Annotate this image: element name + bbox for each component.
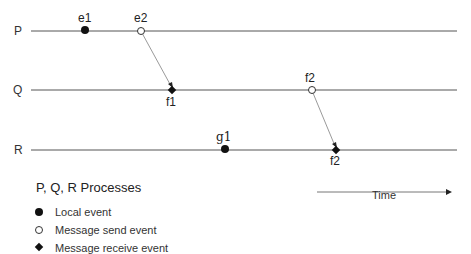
message-arrow-f2-f2 (313, 93, 335, 146)
process-label-p: P (14, 24, 22, 38)
event-label-f1: f1 (166, 95, 176, 109)
send-event-f2 (309, 87, 316, 94)
hollow-circle-icon (33, 224, 49, 236)
legend-label: Message send event (55, 224, 157, 236)
send-event-e2 (138, 28, 145, 35)
local-event-g1 (221, 145, 229, 153)
event-label-e1: e1 (78, 11, 92, 25)
event-label-g1: g1 (216, 130, 231, 144)
legend-label: Message receive event (55, 242, 168, 254)
event-label-f2-receive: f2 (330, 154, 340, 168)
process-label-q: Q (13, 83, 22, 97)
legend-label: Local event (55, 206, 111, 218)
legend-item-local: Local event (33, 203, 168, 221)
filled-circle-icon (33, 206, 49, 218)
message-arrow-e2-f1 (142, 33, 171, 86)
legend-item-send: Message send event (33, 221, 168, 239)
event-label-e2: e2 (134, 11, 148, 25)
legend-title: P, Q, R Processes (36, 180, 168, 195)
filled-diamond-icon (33, 242, 49, 254)
event-label-f2-send: f2 (305, 71, 315, 85)
receive-event-f2 (332, 146, 340, 154)
time-axis-label: Time (372, 189, 396, 201)
process-label-r: R (14, 143, 23, 157)
legend: P, Q, R Processes Local event Message se… (33, 180, 168, 254)
receive-event-f1 (168, 86, 176, 94)
local-event-e1 (81, 26, 89, 34)
time-arrowhead-icon (446, 189, 452, 195)
legend-item-receive: Message receive event (33, 239, 168, 254)
